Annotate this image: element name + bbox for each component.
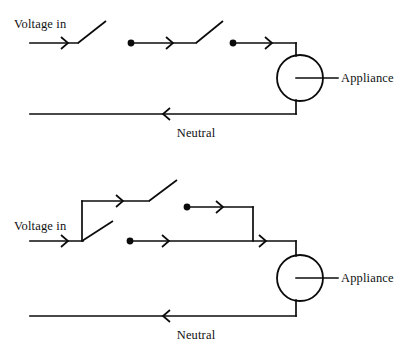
bottom-changeover-blade <box>82 221 113 241</box>
bottom-neutral-label: Neutral <box>177 328 216 342</box>
bottom-appliance-label: Appliance <box>341 271 394 285</box>
bottom-upper-switch-blade <box>149 180 177 201</box>
circuit-diagram-root: Voltage in Neutral Appliance <box>0 0 414 346</box>
top-circuit-group: Voltage in Neutral Appliance <box>14 17 394 140</box>
top-appliance-label: Appliance <box>341 71 394 85</box>
top-switch-2-blade <box>196 21 223 43</box>
top-switch-1-blade <box>78 21 106 43</box>
bottom-voltage-in-label: Voltage in <box>14 219 67 233</box>
circuit-diagram-canvas: Voltage in Neutral Appliance <box>0 0 414 346</box>
bottom-circuit-group: Voltage in Neutral Appliance <box>14 180 394 342</box>
top-voltage-in-label: Voltage in <box>14 17 67 31</box>
top-neutral-label: Neutral <box>177 126 216 140</box>
